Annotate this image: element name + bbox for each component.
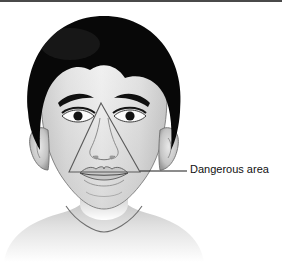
dangerous-area-label: Dangerous area <box>190 163 269 176</box>
figure-container: Dangerous area <box>0 0 282 262</box>
right-pupil <box>125 111 134 120</box>
left-pupil <box>73 111 82 120</box>
hair-highlight <box>40 28 100 60</box>
face-illustration <box>0 0 282 262</box>
